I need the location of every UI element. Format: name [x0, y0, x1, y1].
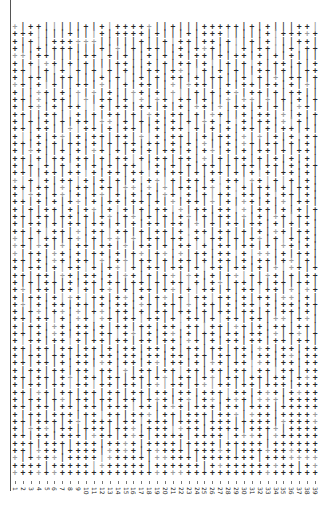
marker-plus: +: [155, 469, 160, 476]
x-axis-tick: [86, 481, 87, 484]
x-axis-tick-label: 31: [249, 487, 255, 495]
x-axis-tick: [94, 481, 95, 484]
x-axis-tick: [47, 481, 48, 484]
x-axis-tick: [307, 481, 308, 484]
x-axis-tick-label: 24: [194, 487, 200, 495]
x-axis-tick-label: 22: [178, 487, 184, 495]
x-axis-tick: [181, 481, 182, 484]
x-axis-ticks: [11, 481, 319, 485]
marker-plus: +: [202, 469, 207, 476]
marker-plus: +: [273, 469, 278, 476]
marker-plus: +: [36, 469, 41, 476]
x-axis-tick: [236, 481, 237, 484]
x-axis-tick: [31, 481, 32, 484]
marker-plus: +: [20, 469, 25, 476]
x-axis-tick: [165, 481, 166, 484]
marker-plus: +: [84, 469, 89, 476]
x-axis-tick-label: 33: [265, 487, 271, 495]
marker-plus: +: [226, 469, 231, 476]
x-axis-tick-label: 19: [154, 487, 160, 495]
marker-plus: +: [265, 469, 270, 476]
x-axis-tick: [276, 481, 277, 484]
marker-plus: +: [313, 469, 318, 476]
x-axis-tick-label: 35: [280, 487, 286, 495]
x-axis-tick-label: 30: [241, 487, 247, 495]
plot-area: +|++|||||+|+|+++++||+|||+++++|+|+|||++|+…: [11, 26, 319, 472]
marker-plus: +: [13, 469, 18, 476]
marker-plus: +: [92, 469, 97, 476]
x-axis-tick: [228, 481, 229, 484]
x-axis-tick: [260, 481, 261, 484]
marker-plus: +: [139, 469, 144, 476]
x-axis-tick-label: 39: [312, 487, 318, 495]
marker-plus: +: [281, 469, 286, 476]
x-axis-tick-label: 6: [51, 487, 57, 491]
x-axis-tick: [23, 481, 24, 484]
x-axis-tick: [315, 481, 316, 484]
marker-plus: +: [242, 469, 247, 476]
marker-plus: +: [210, 469, 215, 476]
x-axis-tick-label: 12: [99, 487, 105, 495]
marker-plus: +: [99, 469, 104, 476]
x-axis-tick: [133, 481, 134, 484]
marker-plus: +: [131, 469, 136, 476]
x-axis-tick-label: 4: [36, 487, 42, 491]
marker-plus: +: [76, 469, 81, 476]
x-axis-tick: [299, 481, 300, 484]
x-axis-tick-label: 17: [138, 487, 144, 495]
marker-plus: +: [257, 469, 262, 476]
x-axis-tick-label: 18: [146, 487, 152, 495]
x-axis-tick: [283, 481, 284, 484]
x-axis-tick-label: 36: [288, 487, 294, 495]
marker-plus: +: [44, 469, 49, 476]
x-axis-tick-label: 28: [225, 487, 231, 495]
x-axis-tick-label: 11: [91, 487, 97, 495]
marker-plus: +: [107, 469, 112, 476]
x-axis-tick: [149, 481, 150, 484]
x-axis-tick: [102, 481, 103, 484]
x-axis-tick: [157, 481, 158, 484]
x-axis-tick: [118, 481, 119, 484]
scatter-plot-figure: +|++|||||+|+|+++++||+|||+++++|+|+|||++|+…: [0, 0, 324, 521]
x-axis-tick-label: 7: [59, 487, 65, 491]
x-axis-tick-label: 32: [257, 487, 263, 495]
x-axis-tick: [244, 481, 245, 484]
marker-plus: +: [68, 469, 73, 476]
marker-plus: +: [194, 469, 199, 476]
x-axis-tick: [62, 481, 63, 484]
x-axis-tick: [78, 481, 79, 484]
x-axis-tick: [70, 481, 71, 484]
x-axis-tick-label: 37: [296, 487, 302, 495]
marker-plus: +: [218, 469, 223, 476]
marker-plus: +: [170, 469, 175, 476]
x-axis-tick-label: 16: [130, 487, 136, 495]
x-axis-tick-label: 29: [233, 487, 239, 495]
x-axis-tick-label: 14: [115, 487, 121, 495]
marker-plus: +: [178, 469, 183, 476]
marker-plus: +: [28, 469, 33, 476]
marker-plus: +: [60, 469, 65, 476]
x-axis-tick-label: 13: [107, 487, 113, 495]
marker-plus: +: [305, 469, 310, 476]
x-axis-tick-label: 9: [75, 487, 81, 491]
x-axis-tick: [189, 481, 190, 484]
x-axis-tick-label: 26: [209, 487, 215, 495]
x-axis-tick: [220, 481, 221, 484]
marker-plus: +: [297, 469, 302, 476]
x-axis-tick-label: 15: [123, 487, 129, 495]
x-axis-tick-label: 27: [217, 487, 223, 495]
x-axis-tick-label: 10: [83, 487, 89, 495]
x-axis-tick: [173, 481, 174, 484]
marker-plus: +: [115, 469, 120, 476]
x-axis-tick-label: 1: [12, 487, 18, 491]
x-axis-tick: [212, 481, 213, 484]
marker-plus: +: [186, 469, 191, 476]
x-axis-tick: [15, 481, 16, 484]
x-axis-tick: [291, 481, 292, 484]
x-axis-tick-label: 20: [162, 487, 168, 495]
x-axis-tick-label: 38: [304, 487, 310, 495]
x-axis-tick: [252, 481, 253, 484]
marker-plus: +: [249, 469, 254, 476]
x-axis-tick-label: 3: [28, 487, 34, 491]
x-axis-tick: [197, 481, 198, 484]
